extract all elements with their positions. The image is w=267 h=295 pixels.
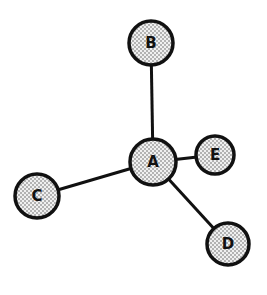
node-e: E bbox=[196, 136, 234, 174]
node-label: A bbox=[147, 153, 159, 171]
node-label: C bbox=[31, 187, 42, 205]
node-label: E bbox=[210, 146, 220, 164]
node-label: B bbox=[145, 34, 156, 52]
node-c: C bbox=[15, 174, 59, 218]
nodes-group: ABCDE bbox=[15, 21, 249, 265]
node-b: B bbox=[129, 21, 173, 65]
node-d: D bbox=[207, 223, 249, 265]
node-label: D bbox=[222, 235, 234, 253]
node-a: A bbox=[130, 139, 176, 185]
graph-diagram: ABCDE bbox=[0, 0, 267, 295]
